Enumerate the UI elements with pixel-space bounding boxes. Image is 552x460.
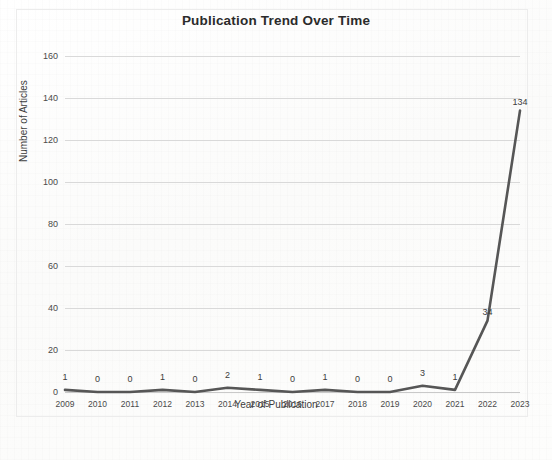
data-label-2021: 1 [452,372,457,382]
data-label-2009: 1 [62,372,67,382]
series-path-number-of-articles [65,111,520,392]
chart-title: Publication Trend Over Time [0,13,552,28]
y-tick-label: 20 [48,345,58,355]
data-label-2012: 1 [160,372,165,382]
y-tick-label: 40 [48,303,58,313]
x-axis-title: Year of Publication [0,399,552,410]
data-label-2011: 0 [127,374,132,384]
y-tick-label: 60 [48,261,58,271]
y-tick-label: 100 [43,177,58,187]
y-tick-label: 80 [48,219,58,229]
data-label-2022: 34 [482,307,492,317]
data-label-2014: 2 [225,370,230,380]
y-tick-label: 120 [43,135,58,145]
data-label-2013: 0 [192,374,197,384]
y-tick-label: 140 [43,93,58,103]
y-axis-title: Number of Articles [18,42,29,162]
data-label-2010: 0 [95,374,100,384]
line-series [65,56,520,392]
plot-area: 020406080100120140160 200920102011201220… [65,56,520,392]
data-label-2023: 134 [512,97,527,107]
y-tick-label: 0 [53,387,58,397]
figure-page: Publication Trend Over Time Number of Ar… [0,0,552,460]
data-label-2018: 0 [355,374,360,384]
y-tick-label: 160 [43,51,58,61]
data-label-2017: 1 [322,372,327,382]
data-label-2015: 1 [257,372,262,382]
data-label-2016: 0 [290,374,295,384]
data-label-2020: 3 [420,368,425,378]
data-label-2019: 0 [387,374,392,384]
